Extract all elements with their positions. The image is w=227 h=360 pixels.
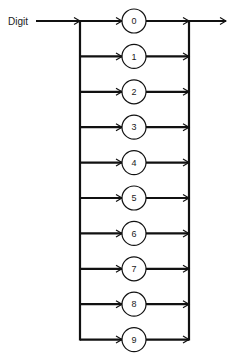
digit-syntax-diagram: Digit 0123456789 (0, 0, 227, 360)
node-label: 9 (131, 335, 136, 345)
diagram-nodes: 0123456789 (122, 9, 146, 352)
digit-node: 4 (122, 151, 146, 175)
node-label: 3 (131, 122, 136, 132)
node-label: 2 (131, 87, 136, 97)
node-label: 6 (131, 229, 136, 239)
digit-node: 6 (122, 221, 146, 245)
node-label: 4 (131, 158, 136, 168)
digit-node: 5 (122, 186, 146, 210)
digit-node: 3 (122, 115, 146, 139)
digit-node: 7 (122, 257, 146, 281)
node-label: 8 (131, 299, 136, 309)
digit-node: 8 (122, 292, 146, 316)
node-label: 7 (131, 264, 136, 274)
digit-node: 1 (122, 44, 146, 68)
node-label: 5 (131, 193, 136, 203)
digit-node: 2 (122, 80, 146, 104)
digit-node: 0 (122, 9, 146, 33)
node-label: 1 (131, 52, 136, 62)
digit-node: 9 (122, 328, 146, 352)
input-label: Digit (8, 16, 28, 27)
node-label: 0 (131, 16, 136, 26)
